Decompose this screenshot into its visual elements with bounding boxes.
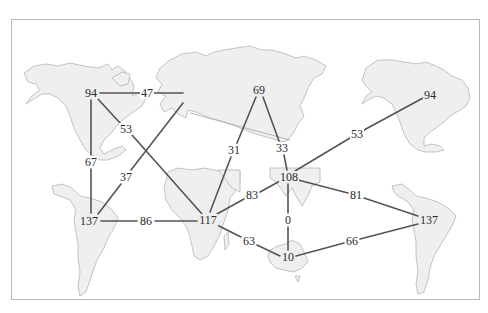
edge-108-53 xyxy=(295,138,350,171)
edge-108-83 xyxy=(260,181,280,192)
landmass-south-america-east xyxy=(392,184,456,294)
landmass-north-america-east xyxy=(362,60,470,152)
node-label-australia: 10 xyxy=(281,251,295,263)
node-label-na-sa-link: 67 xyxy=(84,156,98,168)
world-map xyxy=(0,0,488,313)
node-label-india: 108 xyxy=(279,171,299,183)
landmass-eurasia xyxy=(156,46,326,142)
edge-66-137 xyxy=(360,224,418,239)
node-label-sa-east: 137 xyxy=(419,214,439,226)
node-label-indian-ocean-n: 83 xyxy=(245,189,259,201)
node-label-atl-s: 37 xyxy=(119,171,133,183)
node-label-pacific-m: 81 xyxy=(349,189,363,201)
node-label-indian-ocean-s: 63 xyxy=(242,235,256,247)
node-label-na-west: 94 xyxy=(84,87,98,99)
edge-37-europe xyxy=(131,103,183,170)
node-label-sa-west: 137 xyxy=(79,215,99,227)
node-label-central-asia: 33 xyxy=(275,142,289,154)
node-label-atl-mid: 86 xyxy=(139,215,153,227)
node-label-pacific-s: 66 xyxy=(345,235,359,247)
edge-10-66 xyxy=(296,243,344,256)
node-label-mideast: 31 xyxy=(227,144,241,156)
node-label-pacific-n: 53 xyxy=(350,128,364,140)
node-label-indonesia: 0 xyxy=(284,214,292,226)
node-label-siberia: 69 xyxy=(252,84,266,96)
landmass-madagascar xyxy=(224,232,229,250)
landmass-tasmania xyxy=(295,276,300,282)
node-label-na-east: 94 xyxy=(423,89,437,101)
node-label-africa: 117 xyxy=(198,214,218,226)
node-label-atl-n: 53 xyxy=(119,123,133,135)
node-label-europe-w: 47 xyxy=(140,87,154,99)
